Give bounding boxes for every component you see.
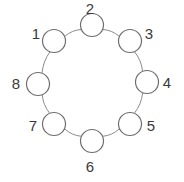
graph-node-5[interactable] [119,113,142,136]
graph-node-label-4: 4 [157,75,177,90]
graph-node-4[interactable] [136,71,159,94]
graph-node-label-1: 1 [26,26,46,41]
graph-node-7[interactable] [43,113,66,136]
graph-node-label-2: 2 [80,1,100,16]
graph-node-label-8: 8 [6,76,26,91]
graph-node-label-6: 6 [80,159,100,174]
graph-edge-6-7 [64,129,81,137]
graph-edge-5-6 [102,129,119,137]
graph-canvas: 12345678 [0,0,184,182]
graph-node-8[interactable] [27,73,50,96]
graph-edge-2-3 [103,29,120,36]
graph-node-6[interactable] [81,130,104,153]
graph-edge-4-5 [134,93,142,114]
graph-edge-1-2 [65,29,82,36]
graph-edge-3-4 [134,52,142,72]
graph-node-label-7: 7 [23,118,43,133]
graph-edge-7-8 [42,95,49,114]
graph-node-label-3: 3 [139,26,159,41]
graph-edge-8-1 [42,52,50,73]
graph-node-label-5: 5 [141,118,161,133]
